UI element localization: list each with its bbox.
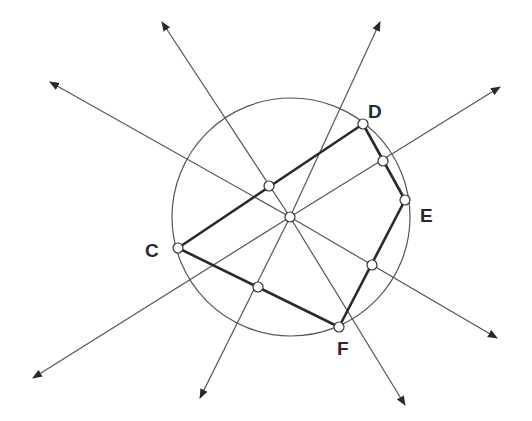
vertex-d — [358, 119, 368, 129]
midpoint-de — [378, 156, 388, 166]
bisector-de-down-ray — [33, 217, 290, 378]
midpoint-cd — [264, 181, 274, 191]
label-c: C — [145, 240, 159, 261]
points — [173, 119, 410, 332]
vertex-e — [400, 195, 410, 205]
quadrilateral-cdef — [178, 124, 405, 327]
label-f: F — [337, 338, 349, 359]
midpoint-cf — [253, 282, 263, 292]
label-e: E — [420, 205, 433, 226]
vertex-c — [173, 243, 183, 253]
circumcenter — [285, 212, 295, 222]
geometry-diagram: CDEF — [0, 0, 532, 421]
vertex-f — [334, 322, 344, 332]
midpoint-ef — [367, 260, 377, 270]
bisector-cf-up-ray — [290, 22, 380, 217]
label-d: D — [368, 101, 382, 122]
